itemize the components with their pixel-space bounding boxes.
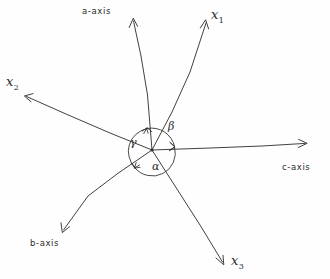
vector-subscript-x3: 3 [238,262,244,271]
angle-label-gamma: γ [130,136,137,149]
axis-ray-b [61,150,152,233]
vector-subscript-x1: 1 [218,16,224,25]
origin-point [151,149,154,152]
vector-subscript-x2: 2 [13,83,19,92]
angle-label-alpha: α [152,160,159,173]
axis-ray-a [129,18,152,150]
angle-label-beta: β [168,120,174,133]
axis-label-c: c-axis [282,162,310,172]
vector-label-x1: x1 [211,7,224,25]
vector-label-x3: x3 [231,253,244,271]
vector-label-x2: x2 [6,74,19,92]
axis-label-b: b-axis [30,238,59,248]
crystallographic-axes-figure: a-axis c-axis b-axis x1 x2 x3 α β γ [0,0,330,279]
axis-label-a: a-axis [82,6,111,16]
vector-ray-x3 [152,150,224,265]
vector-ray-x1 [152,20,209,150]
